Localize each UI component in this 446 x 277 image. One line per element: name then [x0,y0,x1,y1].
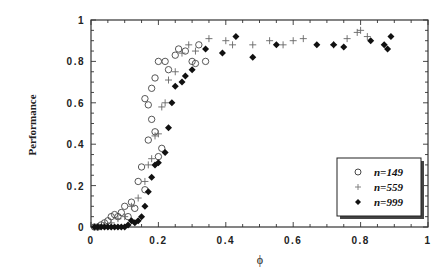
x-tick-label: 0.2 [149,235,167,246]
x-tick-label: 1 [424,235,431,246]
y-tick-label: 0.4 [67,139,85,150]
legend: n=149 n=559 n=999 [337,158,424,219]
scatter-chart: 00.20.40.60.81 00.20.40.60.81 Performanc… [0,0,446,277]
x-axis-tick-labels: 00.20.40.60.81 [87,235,431,246]
legend-label: n=149 [374,166,403,178]
x-axis-label: ϕ [257,253,263,267]
y-axis-label: Performance [26,94,38,155]
y-tick-label: 1 [78,15,85,26]
legend-label: n=999 [374,196,403,208]
legend-label: n=559 [374,181,403,193]
y-tick-label: 0.2 [67,181,85,192]
x-tick-label: 0.6 [284,235,302,246]
x-tick-label: 0 [87,235,94,246]
y-tick-label: 0.8 [67,56,85,67]
y-tick-label: 0.6 [67,98,85,109]
x-tick-label: 0.4 [217,235,235,246]
y-axis-tick-labels: 00.20.40.60.81 [67,15,85,233]
y-tick-label: 0 [78,222,85,233]
x-tick-label: 0.8 [351,235,369,246]
